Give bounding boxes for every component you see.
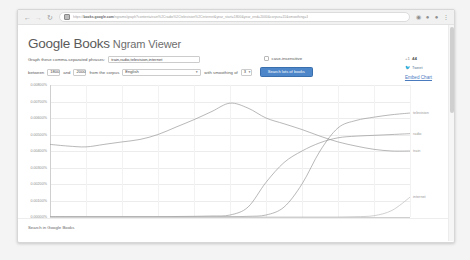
year-end-input[interactable]: 2000: [73, 69, 86, 76]
series-label-radio[interactable]: radio: [413, 132, 421, 136]
more-menu-icon[interactable]: ⋮: [441, 12, 450, 23]
y-axis-tick-label: 0.00700%: [30, 100, 47, 104]
browser-window: ← → ↻ https://books.google.com/ngrams/gr…: [17, 9, 455, 243]
corpus-select-value: English: [125, 69, 138, 75]
lock-icon: [64, 14, 70, 20]
case-insensitive-checkbox[interactable]: [264, 56, 269, 61]
case-insensitive-control[interactable]: case-insensitive: [264, 56, 302, 61]
address-bar-url: https://books.google.com/ngrams/graph?co…: [73, 15, 308, 20]
chevron-down-icon: ▼: [248, 69, 251, 75]
corpus-select[interactable]: English ▼: [122, 69, 201, 76]
social-actions: +1 44 🐦 Tweet Embed Chart: [405, 55, 432, 80]
y-axis-tick-label: 0.00400%: [30, 149, 47, 153]
phrases-input[interactable]: train,radio,television,internet: [108, 56, 200, 63]
corpus-label: from the corpus: [89, 69, 119, 76]
query-row-phrases: Graph these comma-separated phrases: tra…: [28, 56, 203, 63]
query-row-options: between 1800 and 2000 from the corpus En…: [28, 67, 313, 77]
case-insensitive-label: case-insensitive: [272, 56, 303, 61]
ngram-chart: 0.00800%0.00700%0.00600%0.00500%0.00400%…: [26, 81, 442, 233]
gridline-vertical: [410, 85, 411, 217]
series-line-television[interactable]: [50, 113, 410, 217]
back-arrow-icon[interactable]: ←: [22, 12, 33, 23]
browser-toolbar: ← → ↻ https://books.google.com/ngrams/gr…: [18, 10, 454, 25]
google-plus-one-button[interactable]: +1 44: [405, 55, 432, 62]
y-axis-tick-label: 0.00800%: [30, 83, 47, 87]
between-label: between: [28, 69, 44, 76]
page-content: Google BooksNgram Viewer Graph these com…: [18, 25, 454, 241]
twitter-bird-icon: 🐦: [405, 66, 410, 70]
smoothing-select-value: 3: [244, 69, 246, 75]
plus-one-icon: +1: [405, 56, 410, 61]
series-label-television[interactable]: television: [413, 111, 429, 115]
footer-section: Search in Google Books: [18, 218, 449, 241]
embed-chart-link[interactable]: Embed Chart: [405, 75, 432, 80]
profile-icon[interactable]: ●: [423, 12, 432, 23]
screenshot-canvas: ← → ↻ https://books.google.com/ngrams/gr…: [0, 0, 470, 260]
y-axis-tick-label: 0.00500%: [30, 133, 47, 137]
chart-series-lines[interactable]: [50, 85, 410, 217]
scrollbar-thumb[interactable]: [450, 27, 454, 113]
year-start-input[interactable]: 1800: [47, 69, 60, 76]
smoothing-select[interactable]: 3 ▼: [241, 69, 252, 76]
reload-icon[interactable]: ↻: [44, 12, 55, 23]
y-axis-tick-label: 0.00100%: [30, 199, 47, 203]
tweet-button[interactable]: 🐦 Tweet: [405, 64, 432, 71]
and-label: and: [63, 69, 70, 76]
series-label-train[interactable]: train: [413, 149, 420, 153]
series-line-internet[interactable]: [50, 197, 410, 217]
plus-one-count: 44: [412, 56, 417, 61]
account-icon[interactable]: ●: [432, 12, 441, 23]
address-bar[interactable]: https://books.google.com/ngrams/graph?co…: [59, 12, 410, 22]
chart-plot-area: 0.00800%0.00700%0.00600%0.00500%0.00400%…: [50, 85, 410, 217]
page-scrollbar[interactable]: [448, 25, 454, 241]
page-title: Google BooksNgram Viewer: [28, 34, 181, 52]
y-axis-tick-label: 0.00200%: [30, 182, 47, 186]
chevron-down-icon: ▼: [195, 69, 198, 75]
phrases-label: Graph these comma-separated phrases:: [28, 56, 105, 63]
ngram-viewer-title: Ngram Viewer: [113, 38, 181, 50]
series-label-internet[interactable]: internet: [413, 195, 426, 199]
search-in-google-books-heading: Search in Google Books: [28, 225, 74, 230]
search-button[interactable]: Search lots of books: [260, 67, 313, 77]
smoothing-label: with smoothing of: [204, 69, 237, 76]
extension-icon[interactable]: ◉: [414, 12, 423, 23]
series-line-train[interactable]: [50, 103, 410, 151]
google-books-logo: Google Books: [28, 36, 110, 51]
y-axis-tick-label: 0.00300%: [30, 166, 47, 170]
tweet-label: Tweet: [412, 65, 423, 70]
forward-arrow-icon: →: [33, 12, 44, 23]
y-axis-tick-label: 0.00600%: [30, 116, 47, 120]
